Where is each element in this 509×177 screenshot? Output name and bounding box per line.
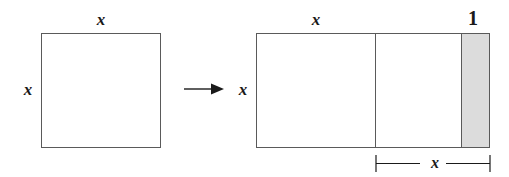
figure-canvas: x x x x 1 x [0,0,509,177]
right-rectangle-divider [375,33,376,148]
left-square-shape [41,33,161,148]
shaded-unit-strip [461,33,490,148]
transform-arrow-icon [182,78,226,100]
left-square-top-label: x [91,11,111,28]
left-square-left-label: x [18,81,38,98]
right-rectangle-top-label: x [306,11,326,28]
right-rectangle-shape [256,33,490,148]
bottom-dimension-label: x [425,155,445,171]
right-rectangle-left-label: x [233,81,253,98]
shaded-strip-width-label: 1 [463,8,483,28]
